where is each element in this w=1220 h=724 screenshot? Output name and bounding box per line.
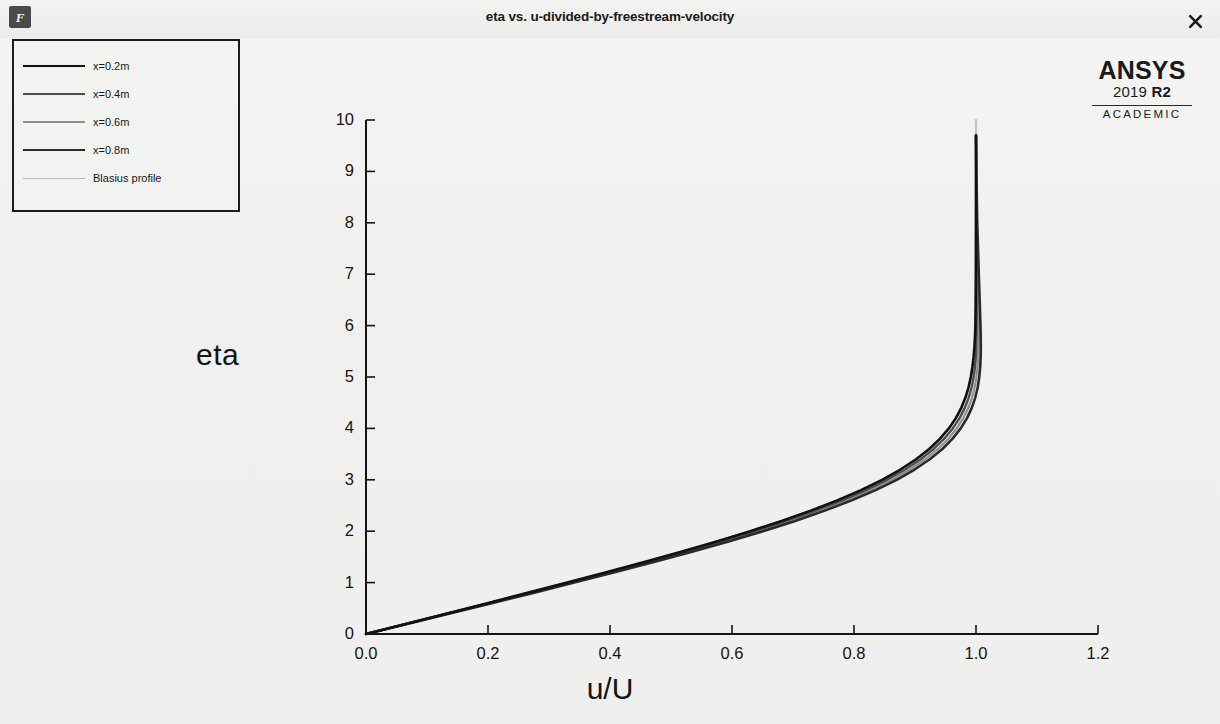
window-title: eta vs. u-divided-by-freestream-velocity <box>0 9 1220 24</box>
ansys-edition: ACADEMIC <box>1086 108 1198 120</box>
y-tick-label: 0 <box>310 624 354 643</box>
series-line <box>366 120 976 634</box>
series-line <box>366 135 976 634</box>
legend-item-label: x=0.8m <box>93 144 129 156</box>
legend-swatch <box>23 178 85 179</box>
ansys-version: 2019 R2 <box>1086 83 1198 102</box>
x-tick-label: 0.6 <box>702 644 762 663</box>
page-footnote <box>0 712 1220 724</box>
legend-item-label: x=0.4m <box>93 88 129 100</box>
legend-item: x=0.8m <box>14 136 238 164</box>
series-line <box>366 135 981 634</box>
x-tick-label: 0.8 <box>824 644 884 663</box>
x-tick-label: 1.2 <box>1068 644 1128 663</box>
y-tick-label: 9 <box>310 161 354 180</box>
legend-swatch <box>23 65 85 67</box>
x-tick-label: 0.2 <box>458 644 518 663</box>
y-tick-label: 1 <box>310 573 354 592</box>
series-line <box>366 135 979 634</box>
legend-swatch <box>23 149 85 151</box>
plot-legend: x=0.2m x=0.4m x=0.6m x=0.8m Blasius prof… <box>12 39 240 212</box>
legend-item-label: Blasius profile <box>93 172 161 184</box>
y-tick-label: 4 <box>310 418 354 437</box>
x-tick-label: 1.0 <box>946 644 1006 663</box>
y-axis-label: eta <box>196 338 239 372</box>
y-tick-label: 5 <box>310 367 354 386</box>
close-icon[interactable] <box>1184 10 1206 32</box>
x-axis-label: u/U <box>0 672 1220 706</box>
fluent-plot-window: F eta vs. u-divided-by-freestream-veloci… <box>0 0 1220 724</box>
legend-item-label: x=0.2m <box>93 60 129 72</box>
x-tick-label: 0.4 <box>580 644 640 663</box>
ansys-wordmark: ANSYS <box>1086 58 1198 83</box>
legend-item: Blasius profile <box>14 164 238 192</box>
legend-swatch <box>23 93 85 95</box>
y-tick-label: 6 <box>310 316 354 335</box>
ansys-version-year: 2019 <box>1113 83 1147 100</box>
y-tick-label: 8 <box>310 213 354 232</box>
legend-item: x=0.4m <box>14 80 238 108</box>
y-tick-label: 3 <box>310 470 354 489</box>
window-titlebar: F eta vs. u-divided-by-freestream-veloci… <box>0 0 1220 38</box>
ansys-version-release: R2 <box>1151 83 1171 100</box>
y-tick-label: 10 <box>310 110 354 129</box>
ansys-divider <box>1092 105 1192 106</box>
legend-item: x=0.6m <box>14 108 238 136</box>
y-tick-label: 2 <box>310 521 354 540</box>
y-tick-label: 7 <box>310 264 354 283</box>
series-line <box>366 135 977 634</box>
legend-item: x=0.2m <box>14 52 238 80</box>
legend-swatch <box>23 121 85 123</box>
legend-item-label: x=0.6m <box>93 116 129 128</box>
x-tick-label: 0.0 <box>336 644 396 663</box>
ansys-logo: ANSYS 2019 R2 ACADEMIC <box>1086 58 1198 120</box>
